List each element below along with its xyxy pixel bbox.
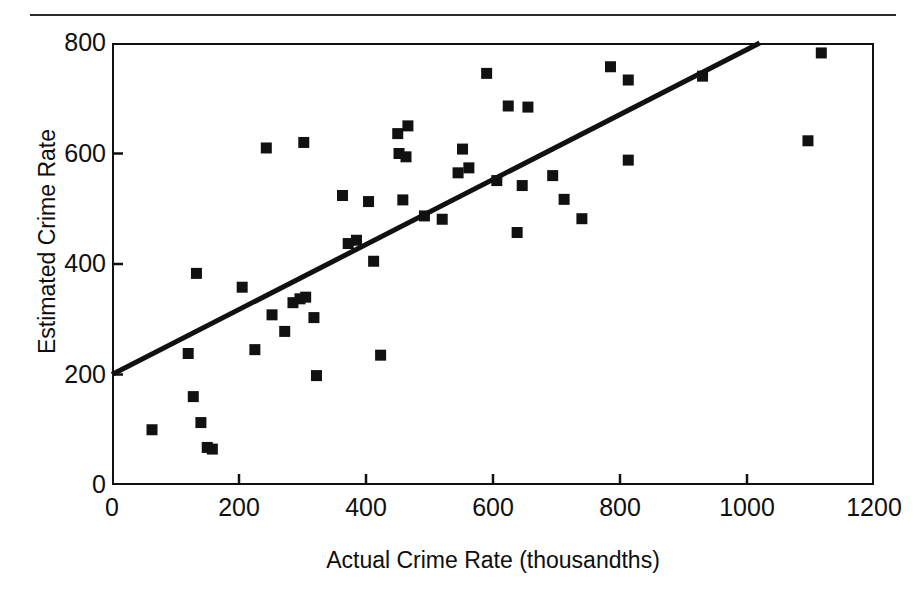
data-point-marker [547,170,558,181]
axis-ticks-layer [112,154,747,486]
data-point-marker [419,210,430,221]
data-point-marker [191,268,202,279]
data-point-marker [463,162,474,173]
data-point-marker [512,227,523,238]
y-axis-title: Estimated Crime Rate [36,32,59,452]
data-point-marker [195,417,206,428]
y-axis-tick-label: 0 [10,472,106,497]
data-point-marker [697,71,708,82]
data-point-marker [261,142,272,153]
x-axis-tick-label: 400 [306,495,426,520]
data-point-marker [802,135,813,146]
horizontal-rule [30,14,896,16]
data-point-marker [207,444,218,455]
data-point-marker [392,128,403,139]
data-point-marker [517,180,528,191]
data-point-marker [816,47,827,58]
regression-trendline [112,43,760,375]
data-point-marker [623,155,634,166]
data-point-marker [481,68,492,79]
data-points-layer [147,47,827,454]
data-point-marker [375,350,386,361]
data-point-marker [402,120,413,131]
data-point-marker [249,344,260,355]
data-point-marker [401,151,412,162]
data-point-marker [437,214,448,225]
x-axis-tick-label: 0 [52,495,172,520]
data-point-marker [311,370,322,381]
data-point-marker [576,213,587,224]
data-point-marker [237,282,248,293]
x-axis-tick-label: 800 [560,495,680,520]
trendline-layer [112,43,760,375]
data-point-marker [188,391,199,402]
data-point-marker [453,167,464,178]
data-point-marker [300,292,311,303]
x-axis-tick-label: 1200 [814,495,922,520]
data-point-marker [397,194,408,205]
data-point-marker [522,102,533,113]
data-point-marker [308,312,319,323]
data-point-marker [147,424,158,435]
data-point-marker [457,144,468,155]
data-point-marker [183,348,194,359]
data-point-marker [267,309,278,320]
data-point-marker [368,256,379,267]
data-point-marker [559,194,570,205]
x-axis-tick-label: 1000 [687,495,807,520]
figure-container: 0200400600800 020040060080010001200 Esti… [0,0,922,606]
data-point-marker [363,196,374,207]
cut-off-caption-fragment [0,0,922,10]
data-point-marker [503,100,514,111]
x-axis-title: Actual Crime Rate (thousandths) [112,549,874,572]
data-point-marker [337,190,348,201]
data-point-marker [605,61,616,72]
scatter-plot-canvas [112,43,874,485]
data-point-marker [279,326,290,337]
x-axis-tick-label: 600 [433,495,553,520]
data-point-marker [351,235,362,246]
data-point-marker [491,175,502,186]
data-point-marker [623,75,634,86]
data-point-marker [298,137,309,148]
x-axis-tick-label: 200 [179,495,299,520]
